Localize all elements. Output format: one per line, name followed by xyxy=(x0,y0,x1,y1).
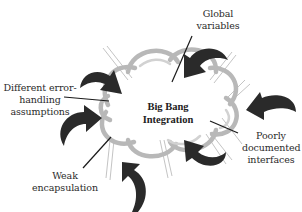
label-line: handling xyxy=(2,94,78,106)
center-label: Big Bang Integration xyxy=(133,100,203,126)
label-global-variables: Global variables xyxy=(183,8,253,32)
leader-weak-encapsulation xyxy=(83,137,111,168)
label-line: encapsulation xyxy=(30,182,100,194)
label-line: Poorly xyxy=(242,130,300,142)
label-line: Weak xyxy=(30,170,100,182)
arrow-top-left-icon xyxy=(80,70,122,94)
arrow-bottom-icon xyxy=(122,162,146,212)
label-line: documented xyxy=(242,142,300,154)
label-different-error-handling: Different error- handling assumptions xyxy=(2,82,78,118)
label-line: Global xyxy=(183,8,253,20)
arrow-right-icon xyxy=(246,92,296,120)
center-label-line2: Integration xyxy=(133,113,203,126)
label-line: assumptions xyxy=(2,106,78,118)
center-label-line1: Big Bang xyxy=(133,100,203,113)
label-line: interfaces xyxy=(242,154,300,166)
label-line: Different error- xyxy=(2,82,78,94)
label-line: variables xyxy=(183,20,253,32)
label-weak-encapsulation: Weak encapsulation xyxy=(30,170,100,194)
label-poorly-documented-interfaces: Poorly documented interfaces xyxy=(242,130,300,166)
